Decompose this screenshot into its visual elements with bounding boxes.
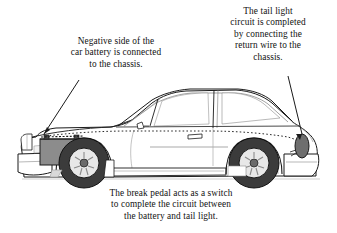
headlight — [21, 134, 32, 150]
leader-arrow-battery — [44, 80, 79, 134]
door-handle — [188, 134, 202, 139]
front-mud-flap — [104, 160, 114, 177]
car-circuit-figure: Negative side of the car battery is conn… — [0, 0, 337, 233]
front-wheel-hub — [80, 159, 88, 167]
pedal-annotation-text: The break pedal acts as a switch to comp… — [63, 188, 279, 222]
rear-wheel-hub — [250, 159, 258, 167]
rocker-panel — [112, 168, 226, 176]
tail-light — [295, 134, 309, 158]
taillight-annotation-text: The tail light circuit is completed by c… — [203, 6, 333, 63]
rear-lower-panel — [228, 166, 246, 176]
battery-annotation-text: Negative side of the car battery is conn… — [42, 36, 190, 70]
